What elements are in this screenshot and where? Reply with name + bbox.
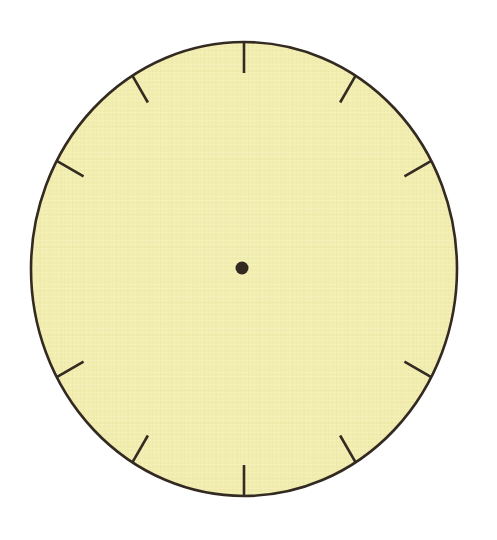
clock-center-dot <box>236 262 249 275</box>
clock-worksheet-canvas: Blank Clock Face worksheet-graphic woven… <box>0 0 497 540</box>
clock-face-graphic <box>0 0 497 540</box>
